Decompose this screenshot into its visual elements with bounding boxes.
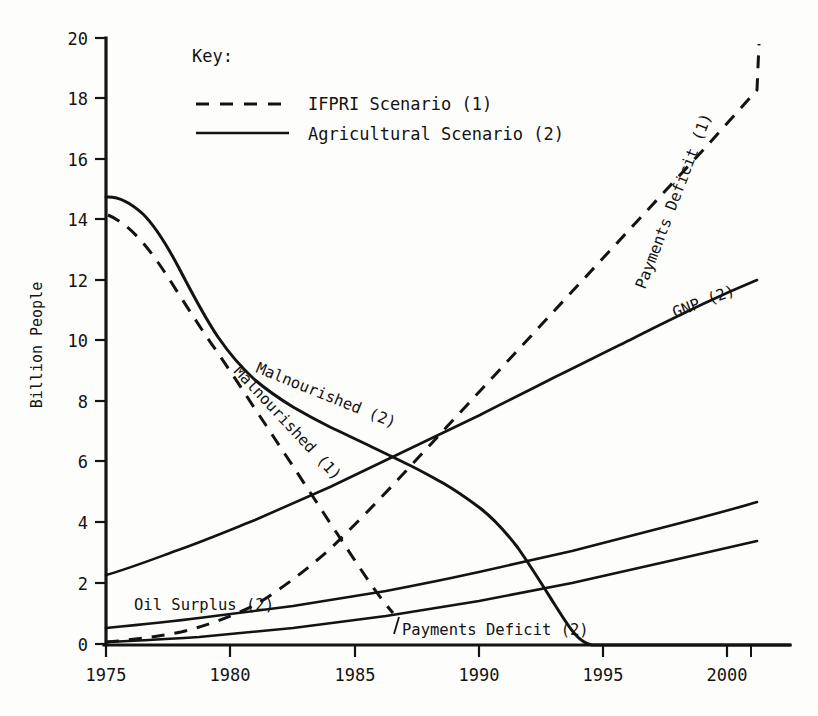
- y-tick-label: 16: [68, 150, 88, 170]
- x-tick-label: 1975: [86, 665, 127, 685]
- y-tick-label: 10: [68, 331, 88, 351]
- x-tick-label: 1985: [335, 665, 376, 685]
- y-tick-label: 6: [78, 452, 88, 472]
- x-tick-labels: 1975 1980 1985 1990 1995 2000: [86, 665, 748, 685]
- y-tick-label: 12: [68, 271, 88, 291]
- x-tick-label: 2000: [707, 665, 748, 685]
- x-tick-label: 1995: [583, 665, 624, 685]
- y-axis-title: Billion People: [28, 282, 46, 408]
- y-tick-label: 18: [68, 89, 88, 109]
- y-tick-label: 20: [68, 29, 88, 49]
- line-chart: 20 18 16 14 12 10 8 6 4 2 0 1975 1980 19…: [0, 0, 818, 716]
- curve-label-leader-line: [394, 617, 399, 634]
- y-tick-label: 14: [68, 210, 88, 230]
- legend-entry-agricultural: Agricultural Scenario (2): [308, 124, 564, 144]
- x-tick-label: 1990: [459, 665, 500, 685]
- series-line-gnp-2: [106, 280, 757, 575]
- curve-label-gnp-2: GNP (2): [670, 282, 737, 322]
- x-tick-label: 1980: [210, 665, 251, 685]
- y-tick-label: 2: [78, 574, 88, 594]
- legend-entry-ifpri: IFPRI Scenario (1): [308, 94, 492, 114]
- y-tick-label: 0: [78, 635, 88, 655]
- curve-label-payments-deficit-1: Payments Deficit (1): [632, 111, 716, 292]
- y-tick-label: 8: [78, 392, 88, 412]
- legend: Key: IFPRI Scenario (1) Agricultural Sce…: [192, 46, 564, 144]
- x-axis-ticks: [106, 645, 751, 657]
- legend-title: Key:: [192, 46, 233, 66]
- curve-label-payments-deficit-2: Payments Deficit (2): [402, 621, 589, 639]
- y-axis-ticks: [95, 38, 106, 644]
- chart-page: 20 18 16 14 12 10 8 6 4 2 0 1975 1980 19…: [0, 0, 818, 716]
- y-tick-label: 4: [78, 513, 88, 533]
- curve-label-oil-surplus-2: Oil Surplus (2): [134, 596, 274, 614]
- y-tick-labels: 20 18 16 14 12 10 8 6 4 2 0: [68, 29, 88, 655]
